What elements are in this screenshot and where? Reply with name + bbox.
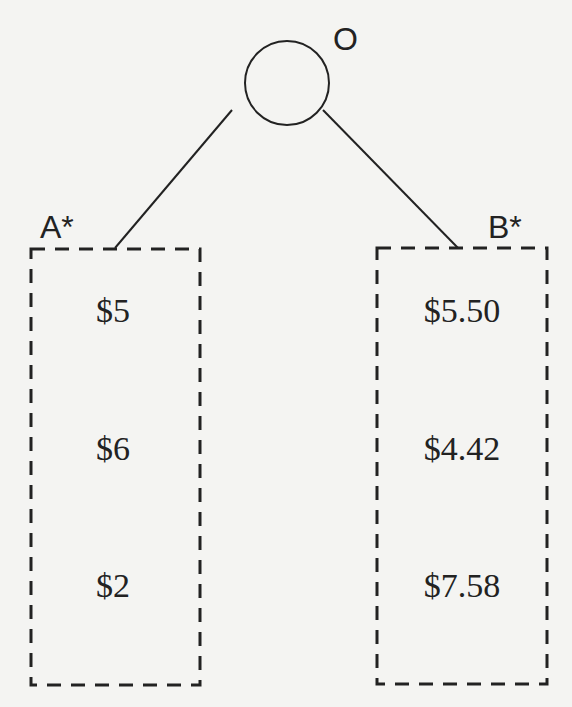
branch-line-a — [115, 110, 232, 248]
outcome-b-1: $5.50 — [424, 292, 501, 329]
outcome-b-2: $4.42 — [424, 430, 501, 467]
outcome-a-3: $2 — [96, 567, 130, 604]
decision-tree-diagram: O A* B* $5 $6 $2 $5.50 $4.42 $7.58 — [0, 0, 572, 707]
root-node-circle — [245, 41, 329, 125]
root-node-label: O — [333, 21, 358, 57]
branch-label-b: B* — [488, 209, 522, 245]
branch-label-a: A* — [40, 209, 74, 245]
branch-line-b — [323, 110, 458, 248]
outcome-a-2: $6 — [96, 430, 130, 467]
outcome-a-1: $5 — [96, 292, 130, 329]
outcome-b-3: $7.58 — [424, 567, 501, 604]
